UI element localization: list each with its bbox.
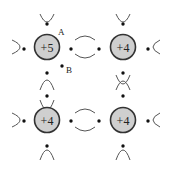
atom-bottom-right: +4 xyxy=(111,108,136,133)
atom-charge-label: +4 xyxy=(117,41,130,55)
diagram-canvas: +5 +4 +4 +4 A B xyxy=(0,0,170,170)
covalent-bonds xyxy=(12,14,160,160)
atom-bottom-left: +4 xyxy=(35,108,60,133)
annotation-a: A xyxy=(58,27,65,37)
atom-top-left: +5 xyxy=(35,35,60,60)
annotation-b: B xyxy=(66,65,72,75)
atom-top-right: +4 xyxy=(111,35,136,60)
atoms: +5 +4 +4 +4 xyxy=(35,35,136,133)
atom-charge-label: +4 xyxy=(117,114,130,128)
atom-charge-label: +5 xyxy=(41,41,54,55)
atom-charge-label: +4 xyxy=(41,114,54,128)
free-electron-b xyxy=(60,64,63,67)
